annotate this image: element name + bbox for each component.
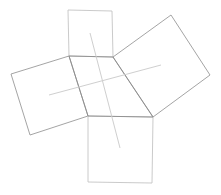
square-right (113, 15, 210, 117)
square-bottom (88, 116, 153, 183)
square-left (11, 56, 88, 135)
center-line-top-bottom (90, 33, 120, 148)
diagram-canvas (0, 0, 221, 195)
center-lines-group (49, 33, 161, 148)
diagram-svg (0, 0, 221, 195)
squares-group (11, 10, 210, 183)
